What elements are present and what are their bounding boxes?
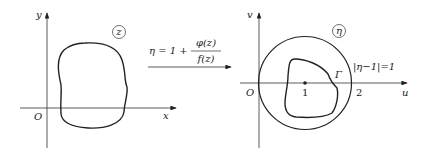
z-region-curve bbox=[58, 43, 127, 128]
mapping-formula: η = 1 + φ(z) f(z) bbox=[148, 37, 231, 67]
mapping-denominator: f(z) bbox=[197, 53, 215, 64]
conformal-map-diagram: z y x O η = 1 + φ(z) f(z) η v u O 1 2 Γ … bbox=[0, 0, 421, 157]
tick-2-label: 2 bbox=[356, 87, 362, 98]
mapping-numerator: φ(z) bbox=[196, 37, 216, 48]
tick-1-label: 1 bbox=[302, 87, 308, 98]
gamma-curve bbox=[285, 59, 338, 117]
mapping-lhs: η = 1 + bbox=[149, 45, 188, 56]
eta-plane: η v u O 1 2 Γ |η−1|=1 bbox=[240, 9, 408, 148]
eta-origin-label: O bbox=[246, 87, 254, 98]
z-plane-label: z bbox=[115, 26, 122, 37]
z-plane: z y x O bbox=[20, 9, 176, 148]
origin-label: O bbox=[34, 111, 42, 122]
x-axis-label: x bbox=[163, 110, 169, 121]
point-1 bbox=[303, 81, 307, 85]
eta-plane-label: η bbox=[336, 25, 342, 36]
v-axis-label: v bbox=[247, 9, 253, 20]
gamma-label: Γ bbox=[334, 69, 343, 80]
y-axis-label: y bbox=[35, 9, 42, 20]
circle-equation-label: |η−1|=1 bbox=[353, 61, 395, 73]
u-axis-label: u bbox=[402, 87, 408, 98]
